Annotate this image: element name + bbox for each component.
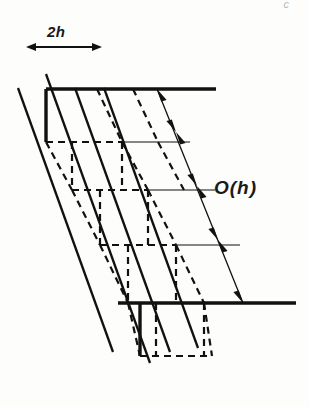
diagonal-2 <box>46 74 150 363</box>
oh-arrow-down-1 <box>166 119 176 132</box>
dash-d-6 <box>133 89 158 142</box>
dimension-label-oh: O(h) <box>214 178 257 197</box>
corner-mark-label: c <box>284 0 290 10</box>
dash-d-8 <box>46 142 72 190</box>
dash-d-5 <box>204 303 212 356</box>
dash-d-3 <box>148 190 176 245</box>
dash-d-10 <box>100 245 128 303</box>
dash-d-4 <box>176 245 204 303</box>
oh-arrow-down-4 <box>233 290 243 303</box>
oh-arrow-down-3 <box>208 227 218 240</box>
dimension-label-2h: 2h <box>47 24 66 39</box>
oh-arrow-down-2 <box>187 173 197 186</box>
technical-diagram: 2h O(h) c <box>0 0 309 407</box>
oh-arrow-up-4 <box>218 240 228 253</box>
structural-frame <box>46 89 296 356</box>
dash-d-9 <box>72 190 100 245</box>
diagonal-3 <box>75 88 170 352</box>
dash-d-1 <box>97 89 122 142</box>
diagram-canvas <box>0 0 309 407</box>
dash-d-7 <box>158 142 184 190</box>
oh-arrow-up-1 <box>157 89 167 102</box>
